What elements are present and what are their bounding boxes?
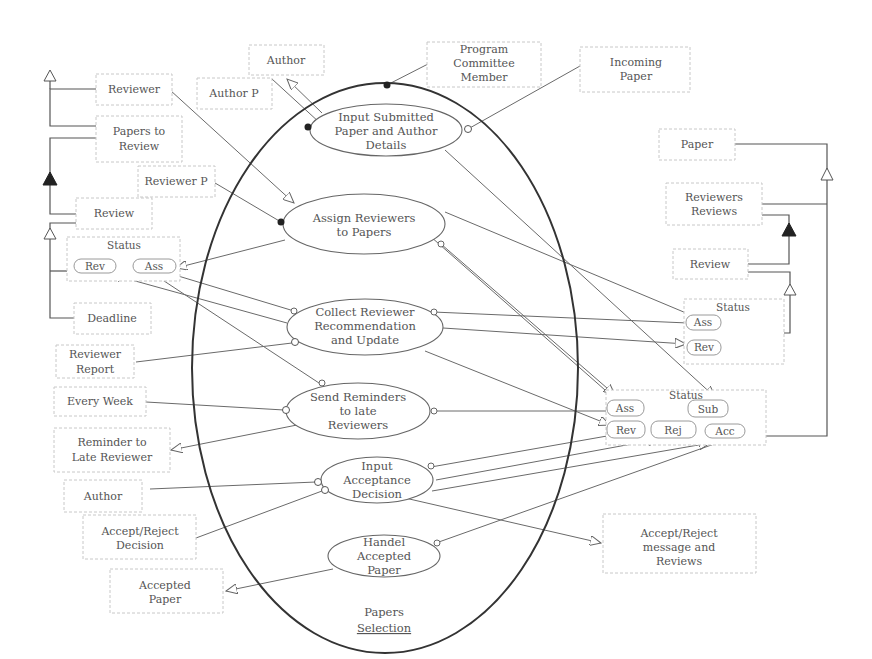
process-label-line: Collect Reviewer [315, 305, 415, 319]
process-label-line: Handel [363, 535, 405, 549]
process-collect-reviewer[interactable]: Collect Reviewer Recommendation and Upda… [287, 299, 443, 355]
entity-reviewer-p[interactable]: Reviewer P [138, 166, 215, 197]
entity-label: Review [119, 140, 160, 153]
status-group-right[interactable]: Status Ass Rev [684, 299, 784, 364]
process-assign-reviewers[interactable]: Assign Reviewers to Papers [283, 194, 445, 254]
process-diagram: Papers Selection Papers Selection Input … [0, 0, 872, 659]
entity-review-right[interactable]: Review [673, 249, 748, 279]
filled-port-icon [305, 124, 312, 131]
event-port-icon [438, 241, 444, 247]
filled-port-icon [278, 219, 285, 226]
entity-label: Accepted [138, 579, 191, 592]
connector-acceptance-to-acc [432, 443, 710, 491]
process-input-submitted[interactable]: Input Submitted Paper and Author Details [310, 104, 462, 156]
connector-accept-reject-decision [196, 491, 322, 538]
connector-assign-to-status-ass [176, 240, 285, 268]
filled-triangle-icon [782, 223, 796, 236]
entity-every-week[interactable]: Every Week [54, 387, 146, 416]
entity-label: Reviews [691, 205, 737, 218]
state-label: Acc [714, 425, 734, 437]
open-triangle-icon [821, 168, 833, 180]
status-group-left[interactable]: Status Rev Ass [67, 237, 180, 281]
process-label-line: Send Reminders [310, 390, 406, 404]
entity-reviewers-reviews[interactable]: Reviewers Reviews [666, 183, 762, 225]
entity-papers-to-review[interactable]: Papers to Review [96, 116, 182, 162]
container-label-selection: Selection [357, 621, 412, 635]
entity-incoming-paper[interactable]: Incoming Paper [580, 47, 690, 92]
open-triangle-icon [44, 70, 56, 81]
process-label-line: to late [339, 404, 376, 418]
entity-review-left[interactable]: Review [76, 198, 152, 229]
process-send-reminders[interactable]: Send Reminders to late Reviewers [286, 383, 430, 439]
entity-label: Author P [208, 87, 259, 100]
process-label-line: Decision [352, 487, 403, 501]
entity-box[interactable] [96, 116, 182, 162]
entity-reviewer[interactable]: Reviewer [96, 74, 172, 105]
entity-label: Late Reviewer [72, 451, 153, 464]
process-label-line: Paper and Author [335, 124, 438, 138]
status-group-paper[interactable]: Status Ass Sub Rev Rej Acc [606, 389, 766, 445]
entity-label: Reviewer P [144, 175, 208, 188]
entity-label: Reviewer [108, 83, 161, 96]
entity-label: message and [643, 541, 716, 554]
entity-label: Incoming [610, 56, 662, 69]
filled-port-icon [384, 82, 391, 89]
entity-label: Program [460, 43, 509, 56]
entity-deadline[interactable]: Deadline [74, 303, 151, 334]
open-port-icon [322, 487, 329, 494]
entity-label: Reminder to [77, 436, 147, 449]
entity-label: Author [266, 54, 306, 67]
entity-label: Paper [681, 138, 714, 151]
connector-reviewer-p [210, 180, 281, 222]
process-label-line: to Papers [337, 225, 392, 239]
connector-assign-to-paper-ass [441, 244, 615, 395]
entity-author-p[interactable]: Author P [197, 78, 272, 109]
process-input-acceptance[interactable]: Input Acceptance Decision [321, 457, 433, 503]
event-port-icon [428, 463, 434, 469]
open-port-icon [283, 407, 290, 414]
state-label: Rev [85, 260, 105, 272]
entity-accept-reject-decision[interactable]: Accept/Reject Decision [83, 515, 196, 559]
open-port-icon [292, 339, 299, 346]
state-label: Rev [694, 341, 714, 353]
connector-handel-to-accepted-paper [226, 569, 333, 591]
entity-accepted-paper[interactable]: Accepted Paper [110, 569, 223, 613]
open-port-icon [465, 126, 472, 133]
entity-box[interactable] [666, 183, 762, 225]
entity-label: Committee [453, 57, 514, 70]
process-label-line: Input Submitted [338, 110, 434, 124]
connector-acceptance-to-message [405, 498, 601, 543]
container-label-papers: Papers [364, 605, 404, 619]
process-label-line: Reviewers [328, 418, 389, 432]
state-label: Ass [144, 260, 163, 272]
entity-label: Report [76, 363, 115, 376]
entity-box[interactable] [54, 428, 170, 472]
entity-paper-right[interactable]: Paper [659, 129, 735, 160]
entity-program-committee-member[interactable]: Program Committee Member [427, 42, 541, 87]
state-label: Ass [615, 402, 634, 414]
process-label-line: Acceptance [342, 473, 411, 487]
open-port-icon [315, 479, 322, 486]
entity-reminder-late-reviewer[interactable]: Reminder to Late Reviewer [54, 428, 170, 472]
connector-collect-to-status-ass [165, 272, 294, 311]
entity-label: Reviewers [685, 191, 743, 204]
event-port-icon [291, 308, 297, 314]
process-handel-accepted[interactable]: Handel Accepted Paper [328, 535, 440, 577]
connector-author-p-to-input [272, 79, 320, 123]
entity-label: Author [83, 490, 123, 503]
entity-label: Review [690, 258, 731, 271]
status-title: Status [716, 301, 750, 313]
bar-reviewer-papers [50, 89, 96, 126]
connector-every-week [146, 402, 284, 410]
entity-accept-reject-message[interactable]: Accept/Reject message and Reviews [603, 514, 756, 573]
entity-author-bottom[interactable]: Author [64, 480, 142, 512]
state-label: Sub [698, 403, 719, 415]
open-triangle-icon [784, 284, 796, 295]
process-label-line: Paper [367, 563, 401, 577]
entity-author-top[interactable]: Author [249, 45, 324, 75]
state-label: Rev [616, 424, 636, 436]
entity-reviewer-report[interactable]: Reviewer Report [56, 345, 134, 378]
filled-triangle-icon [43, 172, 57, 185]
process-label-line: Recommendation [314, 319, 416, 333]
entity-label: Every Week [67, 395, 133, 408]
